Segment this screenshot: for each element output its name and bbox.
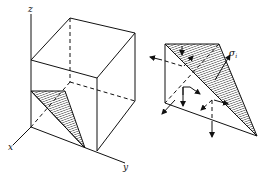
shaded-oblique-face [165, 44, 257, 136]
arrow-right-short [190, 87, 200, 94]
stress-label: σi [229, 48, 237, 59]
arrow-left-outward [150, 57, 162, 60]
cube-top-face [31, 18, 135, 78]
arrow-corner [183, 87, 190, 95]
cube-bottom-right-edge [97, 101, 135, 151]
x-axis [13, 127, 31, 145]
tetrahedron-figure: σi [150, 44, 257, 137]
y-axis-label: y [122, 162, 129, 172]
cube-hidden-right [70, 82, 135, 101]
arrow-diag-down-left [201, 100, 212, 110]
stress-tetrahedron-diagram: z x y σi [0, 0, 269, 175]
arrow-bottom-left-outward [162, 100, 175, 114]
x-axis-label: x [8, 142, 13, 152]
cube-figure: z x y [8, 4, 135, 172]
z-axis-label: z [27, 4, 33, 14]
